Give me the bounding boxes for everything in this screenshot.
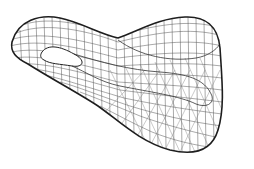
handle-opening [41, 47, 82, 66]
klein-bottle-wireframe [0, 0, 254, 169]
